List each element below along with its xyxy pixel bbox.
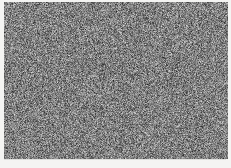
left-margin bbox=[0, 0, 4, 159]
noise-plate bbox=[4, 2, 229, 159]
image-frame: Random grayscale noise field bbox=[0, 0, 231, 168]
bottom-strip bbox=[0, 159, 231, 168]
top-margin bbox=[0, 0, 231, 2]
noise-texture-canvas bbox=[4, 2, 228, 159]
right-margin bbox=[228, 0, 231, 159]
bottom-divider bbox=[4, 159, 226, 160]
